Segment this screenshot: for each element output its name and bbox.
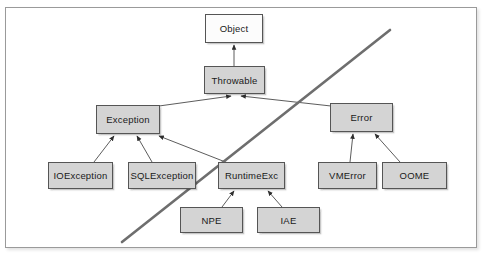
class-node-object[interactable]: Object xyxy=(205,14,263,43)
class-node-ioexception[interactable]: IOException xyxy=(48,162,113,189)
class-node-label: IOException xyxy=(54,170,108,181)
class-node-label: SQLException xyxy=(130,170,193,181)
edge-vmerror-error xyxy=(350,134,353,162)
edge-oome-error xyxy=(375,134,400,162)
edge-runtimeexc-exception xyxy=(159,136,228,163)
class-node-exception[interactable]: Exception xyxy=(96,105,160,134)
edge-error-throwable xyxy=(241,96,331,106)
edge-iae-runtimeexc xyxy=(268,191,282,207)
class-node-throwable[interactable]: Throwable xyxy=(204,66,265,94)
class-node-iae[interactable]: IAE xyxy=(257,207,320,233)
class-node-npe[interactable]: NPE xyxy=(180,207,243,233)
diagram-canvas: ObjectThrowableExceptionErrorIOException… xyxy=(0,0,490,256)
class-node-label: Throwable xyxy=(211,75,257,86)
edge-ioexception-exception xyxy=(94,136,114,162)
class-node-label: Exception xyxy=(106,114,150,125)
edge-npe-runtimeexc xyxy=(222,191,234,207)
edge-exception-throwable xyxy=(159,96,231,106)
class-node-label: OOME xyxy=(400,170,430,181)
class-node-label: NPE xyxy=(201,215,221,226)
class-node-oome[interactable]: OOME xyxy=(382,162,447,189)
class-node-vmerror[interactable]: VMError xyxy=(318,162,377,189)
class-node-label: RuntimeExc xyxy=(225,170,278,181)
class-node-error[interactable]: Error xyxy=(330,103,393,132)
class-node-sqlexception[interactable]: SQLException xyxy=(128,162,196,189)
class-node-label: Object xyxy=(220,23,249,34)
class-node-label: IAE xyxy=(281,215,297,226)
class-node-label: VMError xyxy=(329,170,366,181)
edge-sqlexception-exception xyxy=(137,136,152,162)
checked-unchecked-divider xyxy=(122,30,390,242)
class-hierarchy-diagram: ObjectThrowableExceptionErrorIOException… xyxy=(0,0,490,256)
class-node-label: Error xyxy=(350,112,372,123)
class-node-runtimeexc[interactable]: RuntimeExc xyxy=(218,162,285,189)
